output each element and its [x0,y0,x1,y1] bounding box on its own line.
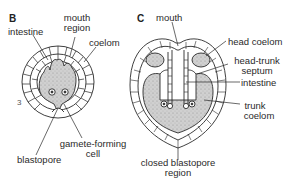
embryo-diagram-figure: B intestine mouth region coelom 3 gamete… [0,0,292,182]
panel-b-embryo [22,46,94,118]
label-coelom-b: coelom [89,38,120,48]
label-mouth-c: mouth [156,13,182,23]
label-gamete-forming-line2: cell [58,149,128,159]
panel-b-letter: B [9,13,16,24]
label-trunk-coelom-line2: coelom [240,111,278,121]
label-closed-blastopore-line2: region [138,168,218,178]
label-intestine-b: intestine [8,27,43,37]
label-intestine-c: intestine [241,78,276,88]
label-head-trunk-septum-line2: septum [230,66,284,76]
label-blastopore: blastopore [17,155,61,165]
panel-c-embryo [130,39,226,148]
side-number: 3 [17,98,21,107]
label-head-coelom: head coelom [228,37,282,47]
panel-c-letter: C [137,13,144,24]
label-mouth-region-line2: region [60,23,94,33]
